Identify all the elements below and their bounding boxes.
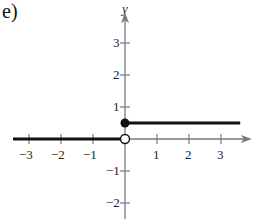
x-tick-label: −1 bbox=[83, 148, 97, 161]
axes bbox=[13, 12, 252, 219]
y-tick-label: 2 bbox=[113, 68, 120, 81]
y-tick-label: 3 bbox=[113, 36, 120, 49]
x-tick-label: 1 bbox=[153, 148, 160, 161]
open-point-icon bbox=[121, 135, 130, 144]
graph-series bbox=[13, 119, 240, 144]
y-tick-label: 1 bbox=[113, 100, 120, 113]
y-axis-label: y bbox=[122, 2, 128, 15]
x-tick-label: −3 bbox=[19, 148, 33, 161]
x-tick-label: −2 bbox=[51, 148, 65, 161]
y-tick-label: −1 bbox=[106, 164, 120, 177]
y-tick-label: −2 bbox=[106, 196, 120, 209]
x-tick-label: 3 bbox=[217, 148, 224, 161]
closed-point-icon bbox=[121, 119, 130, 128]
x-tick-label: 2 bbox=[185, 148, 192, 161]
graph-plot bbox=[0, 0, 254, 219]
